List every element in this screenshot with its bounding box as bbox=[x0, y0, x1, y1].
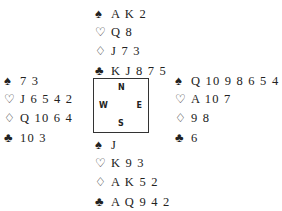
south-clubs: ♣A Q 9 4 2 bbox=[95, 192, 170, 211]
north-spades: ♠A K 2 bbox=[95, 4, 167, 23]
diamond-icon: ♢ bbox=[4, 109, 18, 128]
south-hearts: ♡K 9 3 bbox=[95, 154, 170, 173]
west-hand: ♠7 3 ♡J 6 5 4 2 ♢Q 10 6 4 ♣10 3 bbox=[4, 71, 73, 147]
compass-south-label: S bbox=[118, 119, 124, 128]
north-diamonds: ♢J 7 3 bbox=[95, 42, 167, 61]
compass-box: N W E S bbox=[93, 78, 149, 133]
compass-west-label: W bbox=[99, 101, 108, 110]
spade-icon: ♠ bbox=[95, 135, 109, 154]
compass-north-label: N bbox=[118, 83, 125, 92]
spade-icon: ♠ bbox=[175, 71, 189, 90]
spade-icon: ♠ bbox=[4, 71, 18, 90]
west-clubs: ♣10 3 bbox=[4, 128, 73, 147]
spade-icon: ♠ bbox=[95, 4, 109, 23]
diamond-icon: ♢ bbox=[95, 173, 109, 192]
east-spades: ♠Q 10 9 8 6 5 4 bbox=[175, 71, 279, 90]
diamond-icon: ♢ bbox=[175, 109, 189, 128]
east-hearts: ♡A 10 7 bbox=[175, 90, 279, 109]
east-clubs: ♣6 bbox=[175, 128, 279, 147]
heart-icon: ♡ bbox=[4, 90, 18, 109]
north-hand: ♠A K 2 ♡Q 8 ♢J 7 3 ♣K J 8 7 5 bbox=[95, 4, 167, 80]
south-hand: ♠J ♡K 9 3 ♢A K 5 2 ♣A Q 9 4 2 bbox=[95, 135, 170, 211]
club-icon: ♣ bbox=[4, 128, 18, 147]
south-spades: ♠J bbox=[95, 135, 170, 154]
east-hand: ♠Q 10 9 8 6 5 4 ♡A 10 7 ♢9 8 ♣6 bbox=[175, 71, 279, 147]
diamond-icon: ♢ bbox=[95, 42, 109, 61]
club-icon: ♣ bbox=[175, 128, 189, 147]
compass-east-label: E bbox=[137, 101, 142, 110]
heart-icon: ♡ bbox=[175, 90, 189, 109]
west-hearts: ♡J 6 5 4 2 bbox=[4, 90, 73, 109]
west-diamonds: ♢Q 10 6 4 bbox=[4, 109, 73, 128]
west-spades: ♠7 3 bbox=[4, 71, 73, 90]
club-icon: ♣ bbox=[95, 192, 109, 211]
heart-icon: ♡ bbox=[95, 154, 109, 173]
east-diamonds: ♢9 8 bbox=[175, 109, 279, 128]
north-hearts: ♡Q 8 bbox=[95, 23, 167, 42]
heart-icon: ♡ bbox=[95, 23, 109, 42]
south-diamonds: ♢A K 5 2 bbox=[95, 173, 170, 192]
